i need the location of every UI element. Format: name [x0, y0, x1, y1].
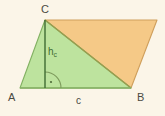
vertex-label-b: B [137, 92, 145, 103]
altitude-label-subscript: c [54, 51, 58, 58]
vertex-label-c: C [41, 4, 49, 15]
altitude-label-hc: hc [48, 47, 57, 57]
vertex-label-a: A [8, 92, 16, 103]
geometry-figure: C A B hc c [0, 0, 165, 116]
altitude-label-main: h [48, 46, 54, 57]
base-label-c: c [76, 96, 81, 106]
right-angle-dot [50, 81, 52, 83]
